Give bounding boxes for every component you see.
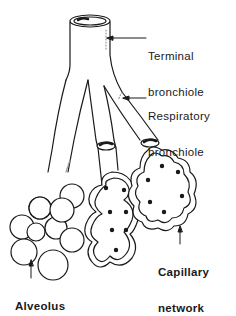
alveolus-label: Alveolus <box>15 276 65 316</box>
left-branch-shape <box>48 80 88 172</box>
middle-branch-shape <box>88 80 118 185</box>
respiratory-bronchiole-arrow <box>123 96 129 100</box>
capillary-network-label-line1: Capillary <box>158 266 209 278</box>
terminal-bronchiole-label-line1: Terminal <box>148 50 204 62</box>
respiratory-bronchiole-label-line1: Respiratory <box>148 110 210 122</box>
respiratory-bronchiole-label-line2: bronchiole <box>148 146 210 158</box>
capillary-network-label: Capillary network <box>158 242 209 316</box>
capillary-network-arrow <box>178 226 182 232</box>
terminal-bronchiole-shape <box>66 15 122 92</box>
capillary-network-label-line2: network <box>158 302 209 314</box>
middle-alveolar-sac <box>85 172 139 267</box>
alveolar-cluster <box>10 184 84 280</box>
alveolus-label-line1: Alveolus <box>15 300 65 312</box>
terminal-bronchiole-arrow <box>107 36 113 40</box>
respiratory-bronchiole-label: Respiratory bronchiole <box>148 86 210 170</box>
